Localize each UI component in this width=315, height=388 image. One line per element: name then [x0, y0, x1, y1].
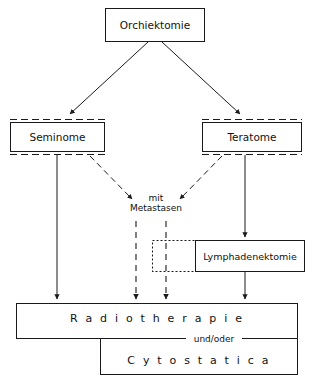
node-box-teratome [203, 123, 302, 152]
node-box-dotted-placeholder [153, 241, 196, 272]
flowchart-diagram: Orchiektomie Seminome Teratome mit Metas… [0, 0, 315, 388]
edge-teratome-to-metastasen [180, 156, 222, 199]
diagram-canvas [0, 0, 315, 388]
edge-seminome-to-metastasen [90, 156, 132, 199]
node-box-cytostatica [101, 339, 298, 375]
node-box-lymphadenektomie [196, 241, 305, 272]
node-box-seminome [11, 123, 105, 152]
node-box-orchiektomie [106, 9, 205, 42]
edge-orchiektomie-to-teratome [162, 42, 240, 114]
node-box-radiotherapie [17, 304, 298, 339]
edge-orchiektomie-to-seminome [70, 42, 148, 114]
